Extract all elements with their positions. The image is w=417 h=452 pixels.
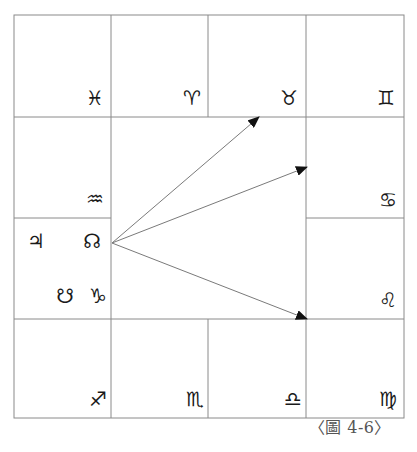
arrow-to-leo <box>112 243 307 319</box>
horoscope-square-chart: ♓ ♈ ♉ ♊ ♒ ♃ ☊ ☋ ♑ ♋ ♌ ♐ ♏ ♎ ♍ <box>0 0 417 452</box>
pisces-icon: ♓ <box>86 86 104 110</box>
sagittarius-icon: ♐ <box>89 387 107 411</box>
figure-caption: 〈圖 4-6〉 <box>309 414 391 438</box>
taurus-icon: ♉ <box>280 86 298 110</box>
arrow-to-cancer <box>112 167 307 243</box>
aries-icon: ♈ <box>183 86 201 110</box>
capricorn-icon: ♑ <box>89 284 107 308</box>
scorpio-icon: ♏ <box>186 387 204 411</box>
south-node-icon: ☋ <box>56 284 74 308</box>
leo-icon: ♌ <box>379 288 397 312</box>
libra-icon: ♎ <box>284 387 302 411</box>
gemini-icon: ♊ <box>377 86 395 110</box>
north-node-icon: ☊ <box>83 229 101 253</box>
aquarius-icon: ♒ <box>86 187 104 211</box>
chart-outer-frame <box>14 15 404 418</box>
jupiter-icon: ♃ <box>27 229 45 253</box>
cancer-icon: ♋ <box>379 188 397 212</box>
arrow-to-taurus <box>112 117 259 243</box>
virgo-icon: ♍ <box>379 387 397 411</box>
